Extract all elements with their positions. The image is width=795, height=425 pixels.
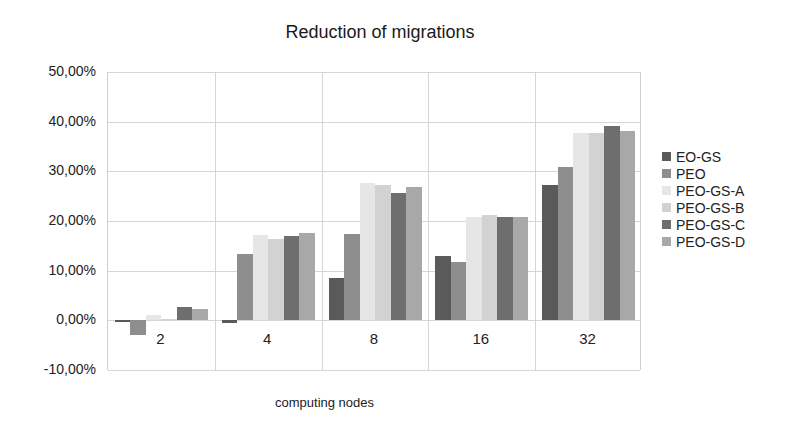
chart-title-text: Reduction of migrations — [285, 22, 474, 43]
legend-label: PEO-GS-C — [676, 217, 745, 233]
bar-eo-gs-16 — [435, 256, 451, 320]
x-tick-label: 2 — [130, 330, 190, 347]
legend-swatch-icon — [662, 169, 671, 178]
y-tick-label: 0,00% — [0, 311, 96, 327]
bar-peo-gs-a-2 — [146, 315, 162, 320]
bar-peo-gs-a-4 — [253, 235, 269, 320]
category-divider — [428, 72, 429, 370]
bar-peo-gs-d-4 — [299, 233, 315, 320]
x-tick-label: 16 — [451, 330, 511, 347]
bar-peo-gs-c-16 — [497, 217, 513, 321]
bar-peo-4 — [237, 254, 253, 320]
bar-peo-gs-d-8 — [406, 187, 422, 320]
y-tick-label: 20,00% — [0, 212, 96, 228]
legend-item: PEO-GS-A — [662, 182, 745, 199]
legend-label: EO-GS — [676, 149, 721, 165]
legend-label: PEO — [676, 166, 706, 182]
bar-peo-gs-b-8 — [375, 185, 391, 320]
chart-title: Reduction of migrations — [0, 22, 760, 43]
bar-peo-gs-c-32 — [604, 126, 620, 321]
y-tick-label: -10,00% — [0, 361, 96, 377]
y-tick-label: 10,00% — [0, 262, 96, 278]
bar-peo-gs-b-4 — [268, 239, 284, 320]
y-tick-label: 50,00% — [0, 63, 96, 79]
bar-peo-gs-d-32 — [620, 131, 636, 321]
x-tick-label: 32 — [558, 330, 618, 347]
bar-peo-gs-a-32 — [573, 133, 589, 321]
legend-label: PEO-GS-D — [676, 234, 745, 250]
category-divider — [215, 72, 216, 370]
category-divider — [535, 72, 536, 370]
bar-peo-gs-b-32 — [589, 133, 605, 321]
plot-area — [107, 72, 641, 370]
gridline — [108, 320, 640, 321]
gridline — [108, 370, 640, 371]
bar-peo-8 — [344, 234, 360, 320]
bar-peo-gs-b-16 — [482, 215, 498, 321]
bar-peo-gs-a-8 — [360, 183, 376, 320]
y-tick-label: 30,00% — [0, 162, 96, 178]
bar-peo-16 — [451, 262, 467, 320]
bar-eo-gs-32 — [542, 185, 558, 320]
legend-swatch-icon — [662, 220, 671, 229]
legend-swatch-icon — [662, 186, 671, 195]
bar-peo-gs-c-2 — [177, 307, 193, 320]
bar-peo-gs-d-16 — [513, 217, 529, 321]
x-tick-label: 8 — [344, 330, 404, 347]
y-tick-label: 40,00% — [0, 113, 96, 129]
category-divider — [322, 72, 323, 370]
legend-swatch-icon — [662, 152, 671, 161]
bar-peo-gs-a-16 — [466, 217, 482, 321]
legend-item: PEO-GS-B — [662, 199, 745, 216]
bar-peo-gs-b-2 — [161, 319, 177, 321]
bar-eo-gs-4 — [222, 320, 238, 322]
legend-label: PEO-GS-B — [676, 200, 744, 216]
legend-item: PEO-GS-D — [662, 233, 745, 250]
legend-item: PEO-GS-C — [662, 216, 745, 233]
bar-eo-gs-2 — [115, 320, 131, 322]
bar-peo-32 — [558, 167, 574, 320]
legend-item: PEO — [662, 165, 745, 182]
legend: EO-GSPEOPEO-GS-APEO-GS-BPEO-GS-CPEO-GS-D — [662, 148, 745, 250]
bar-peo-gs-c-8 — [391, 193, 407, 320]
bar-eo-gs-8 — [329, 278, 345, 320]
gridline — [108, 72, 640, 73]
bar-peo-gs-c-4 — [284, 236, 300, 320]
legend-label: PEO-GS-A — [676, 183, 744, 199]
legend-swatch-icon — [662, 203, 671, 212]
bar-peo-gs-d-2 — [192, 309, 208, 320]
gridline — [108, 122, 640, 123]
x-tick-label: 4 — [237, 330, 297, 347]
legend-item: EO-GS — [662, 148, 745, 165]
x-axis-label: computing nodes — [275, 395, 374, 410]
legend-swatch-icon — [662, 237, 671, 246]
